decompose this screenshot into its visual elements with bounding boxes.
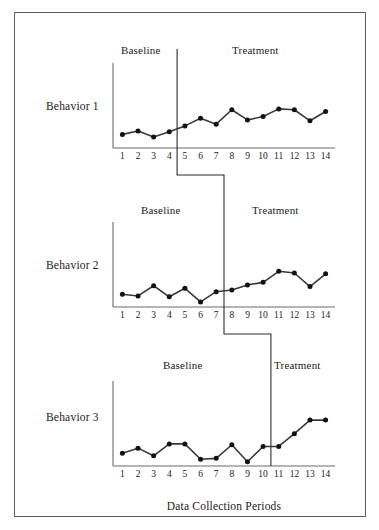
phase-label-treatment-2: Treatment — [252, 204, 299, 216]
data-point — [261, 444, 266, 449]
data-point — [292, 107, 297, 112]
x-tick-label: 11 — [274, 310, 283, 320]
data-point — [261, 114, 266, 119]
x-tick-label: 5 — [183, 310, 188, 320]
x-tick-label: 9 — [245, 469, 250, 479]
x-tick-label: 9 — [245, 151, 250, 161]
data-point — [245, 459, 250, 464]
data-point — [292, 271, 297, 276]
data-point — [167, 441, 172, 446]
x-tick-label: 1 — [120, 310, 125, 320]
data-point — [120, 451, 125, 456]
x-tick-label: 8 — [229, 151, 234, 161]
x-tick-label: 6 — [198, 469, 203, 479]
data-point — [229, 442, 234, 447]
x-tick-label: 14 — [321, 469, 331, 479]
panel-label-behavior-1: Behavior 1 — [46, 100, 99, 112]
x-tick-label: 2 — [136, 310, 141, 320]
data-point — [167, 294, 172, 299]
x-tick-label: 14 — [321, 310, 331, 320]
x-tick-label: 11 — [274, 151, 283, 161]
data-point — [136, 129, 141, 134]
x-tick-label: 7 — [214, 310, 219, 320]
x-tick-label: 2 — [136, 151, 141, 161]
phase-label-baseline-1: Baseline — [121, 44, 160, 56]
data-point — [198, 457, 203, 462]
data-point — [120, 132, 125, 137]
data-point — [136, 293, 141, 298]
data-point — [323, 418, 328, 423]
x-tick-label: 6 — [198, 151, 203, 161]
panel-label-behavior-2: Behavior 2 — [46, 259, 99, 271]
x-tick-label: 13 — [305, 469, 315, 479]
x-tick-label: 2 — [136, 469, 141, 479]
x-tick-label: 3 — [151, 469, 156, 479]
panel-1 — [113, 49, 335, 148]
data-point — [151, 134, 156, 139]
data-point — [151, 453, 156, 458]
data-point — [245, 117, 250, 122]
x-tick-label: 5 — [183, 469, 188, 479]
data-point — [182, 123, 187, 128]
data-point — [307, 284, 312, 289]
panel-3 — [113, 367, 335, 466]
data-point — [229, 288, 234, 293]
figure-page: Behavior 1 Baseline Treatment Behavior 2… — [0, 0, 379, 530]
data-point — [292, 431, 297, 436]
x-tick-label: 12 — [290, 151, 300, 161]
data-point — [182, 441, 187, 446]
x-tick-label: 3 — [151, 310, 156, 320]
x-tick-label: 12 — [290, 469, 300, 479]
x-tick-label: 8 — [229, 310, 234, 320]
data-point — [198, 299, 203, 304]
x-axis-title: Data Collection Periods — [167, 500, 281, 512]
x-tick-label: 7 — [214, 151, 219, 161]
phase-label-treatment-3: Treatment — [274, 359, 321, 371]
data-point — [245, 282, 250, 287]
x-tick-label: 4 — [167, 151, 172, 161]
data-point — [307, 118, 312, 123]
x-tick-label: 13 — [305, 151, 315, 161]
data-point — [214, 122, 219, 127]
x-tick-label: 12 — [290, 310, 300, 320]
x-tick-label: 13 — [305, 310, 315, 320]
phase-label-treatment-1: Treatment — [232, 44, 279, 56]
data-point — [261, 280, 266, 285]
data-point — [276, 269, 281, 274]
x-tick-label: 10 — [258, 469, 268, 479]
data-line-panel-1 — [122, 109, 325, 137]
data-point — [151, 283, 156, 288]
data-point — [214, 289, 219, 294]
x-tick-label: 3 — [151, 151, 156, 161]
data-point — [323, 109, 328, 114]
data-point — [229, 107, 234, 112]
x-tick-label: 8 — [229, 469, 234, 479]
x-tick-label: 4 — [167, 469, 172, 479]
data-point — [182, 286, 187, 291]
data-point — [136, 446, 141, 451]
x-tick-label: 11 — [274, 469, 283, 479]
x-tick-label: 1 — [120, 469, 125, 479]
x-tick-label: 10 — [258, 310, 268, 320]
phase-label-baseline-2: Baseline — [141, 204, 180, 216]
data-point — [120, 292, 125, 297]
x-tick-label: 9 — [245, 310, 250, 320]
data-point — [307, 418, 312, 423]
data-point — [276, 444, 281, 449]
phase-label-baseline-3: Baseline — [163, 359, 202, 371]
x-tick-label: 1 — [120, 151, 125, 161]
x-tick-label: 14 — [321, 151, 331, 161]
panel-label-behavior-3: Behavior 3 — [46, 411, 99, 423]
data-point — [214, 456, 219, 461]
data-point — [198, 116, 203, 121]
x-tick-label: 4 — [167, 310, 172, 320]
x-tick-label: 5 — [183, 151, 188, 161]
data-point — [167, 129, 172, 134]
data-point — [276, 106, 281, 111]
x-tick-label: 6 — [198, 310, 203, 320]
x-tick-label: 7 — [214, 469, 219, 479]
panel-2 — [113, 208, 335, 307]
x-tick-label: 10 — [258, 151, 268, 161]
data-point — [323, 271, 328, 276]
